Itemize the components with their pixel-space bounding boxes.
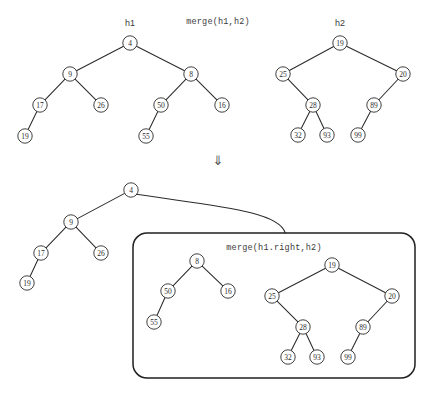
- merge-box-outline: [133, 233, 415, 378]
- h1-tree-node-value: 19: [21, 132, 29, 141]
- h1-tree-node: 26: [94, 98, 108, 112]
- result-tree-node: 17: [34, 246, 48, 260]
- merge-right-edge: [277, 301, 298, 322]
- h2-tree-edge: [316, 112, 324, 129]
- down-double-arrow-icon: ⇓: [213, 153, 224, 168]
- h1-tree-node: 55: [139, 129, 153, 143]
- h1-tree-node-value: 8: [189, 70, 193, 79]
- h1-tree-node-value: 16: [218, 101, 226, 110]
- merge-right-edge: [368, 301, 387, 321]
- result-tree-node: 19: [20, 276, 34, 290]
- h2-tree-node: 99: [351, 128, 365, 142]
- result-tree-node: 26: [94, 246, 108, 260]
- merge-right-edge: [351, 333, 360, 350]
- h2-tree-edge: [346, 46, 396, 71]
- result-tree-node-value: 19: [23, 279, 31, 288]
- result-tree-edge: [46, 227, 66, 248]
- h1-tree-node: 4: [123, 36, 137, 50]
- heap-merge-diagram: h1 h2 merge(h1,h2) 498172650161955 19252…: [0, 0, 432, 401]
- merge-right-node: 99: [341, 350, 355, 364]
- h2-tree-edge: [361, 111, 370, 128]
- h1-tree-edge: [136, 46, 184, 70]
- h1-tree-node: 17: [33, 98, 47, 112]
- h2-tree-node-value: 20: [399, 70, 407, 79]
- merge-right-edge: [278, 268, 325, 292]
- merge-right-node: 93: [310, 350, 324, 364]
- h1-tree-title: h1: [125, 18, 135, 28]
- merge-right-node-value: 32: [284, 353, 292, 362]
- merge-right-node: 28: [296, 320, 310, 334]
- result-tree-node-value: 9: [69, 218, 73, 227]
- h1-tree-node-value: 26: [97, 101, 105, 110]
- merge-right-node-value: 89: [359, 323, 367, 332]
- result-tree-edge: [76, 227, 96, 248]
- result-tree-node-value: 17: [37, 249, 45, 258]
- result-tree-node: 4: [124, 183, 138, 197]
- merge-right-node-value: 99: [344, 353, 352, 362]
- h2-tree-node-value: 99: [354, 131, 362, 140]
- h1-tree-node: 9: [63, 67, 77, 81]
- h1-tree-edge: [76, 46, 123, 70]
- h2-tree-node-value: 89: [370, 101, 378, 110]
- h2-tree-node-value: 93: [323, 131, 331, 140]
- h1-tree-node-value: 17: [36, 101, 44, 110]
- h1-tree-node-value: 50: [157, 101, 165, 110]
- h1-tree-node: 50: [154, 98, 168, 112]
- h2-tree-node-value: 19: [336, 39, 344, 48]
- merge-left-node: 50: [161, 284, 175, 298]
- h1-tree-node: 8: [184, 67, 198, 81]
- h2-tree-node-value: 32: [294, 131, 302, 140]
- merge-left-node-value: 16: [224, 287, 232, 296]
- merge-right-node: 25: [265, 289, 279, 303]
- merge-left-node-value: 55: [150, 318, 158, 327]
- h2-tree: 1925202889329399: [276, 36, 410, 142]
- result-tree-node: 9: [64, 215, 78, 229]
- h2-tree-edge: [289, 46, 333, 70]
- h1-tree-edge: [45, 79, 65, 100]
- result-tree-node-value: 26: [97, 249, 105, 258]
- h1-tree-node: 19: [18, 129, 32, 143]
- merge-box-label: merge(h1.right,h2): [226, 243, 321, 253]
- merge-left-node: 8: [190, 254, 204, 268]
- result-tree-edge: [77, 193, 124, 218]
- h2-tree-edge: [288, 79, 308, 100]
- merge-right-node: 89: [356, 320, 370, 334]
- merge-left-node-value: 50: [164, 287, 172, 296]
- h1-tree-node-value: 55: [142, 132, 150, 141]
- h2-tree-node: 32: [291, 128, 305, 142]
- merge-right-node-value: 20: [388, 292, 396, 301]
- root-to-merge-box-edge: [136, 194, 285, 233]
- merge-left-node: 16: [221, 284, 235, 298]
- merge-right-edge: [291, 333, 300, 350]
- merge-left-node: 55: [147, 315, 161, 329]
- h2-tree-edge: [301, 111, 310, 128]
- merge-left-node-value: 8: [195, 257, 199, 266]
- h2-tree-title: h2: [335, 18, 345, 28]
- h2-tree-node-value: 28: [309, 101, 317, 110]
- merge-right-node-value: 93: [313, 353, 321, 362]
- merge-right-edge: [306, 334, 314, 351]
- h1-tree-node: 16: [215, 98, 229, 112]
- merge-right-node: 20: [385, 289, 399, 303]
- h1-tree-edge: [75, 79, 96, 100]
- result-tree-edge: [30, 260, 38, 277]
- h1-tree-edge: [149, 111, 158, 129]
- h1-tree-edge: [28, 111, 37, 129]
- merge-box-right-subtree: 1925202889329399: [265, 258, 399, 364]
- h1-tree: 498172650161955: [18, 36, 229, 143]
- merge-right-node-value: 28: [299, 323, 307, 332]
- h2-tree-node: 20: [396, 67, 410, 81]
- h2-tree-edge: [379, 79, 398, 99]
- h2-tree-node-value: 25: [279, 70, 287, 79]
- h1-tree-edge: [166, 79, 186, 100]
- merge-right-node: 19: [325, 258, 339, 272]
- h2-tree-node: 25: [276, 67, 290, 81]
- merge-right-edge: [338, 268, 385, 292]
- merged-result-tree: 49172619: [20, 183, 138, 290]
- merge-left-edge: [202, 266, 223, 286]
- merge-right-node-value: 19: [328, 261, 336, 270]
- h2-tree-node: 19: [333, 36, 347, 50]
- h1-tree-edge: [196, 79, 217, 100]
- h2-tree-node: 93: [320, 128, 334, 142]
- result-tree-node-value: 4: [129, 186, 133, 195]
